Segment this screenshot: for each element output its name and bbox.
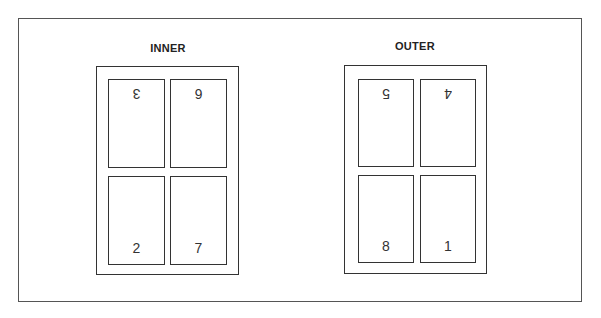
inner-title: INNER — [108, 42, 228, 54]
inner-sheet: 3 6 2 7 — [96, 66, 239, 275]
page-number: 7 — [171, 240, 226, 256]
outer-panel-bottom-right: 1 — [420, 175, 476, 263]
page-number: 3 — [109, 86, 164, 102]
outer-sheet: 5 4 8 1 — [344, 65, 487, 274]
outer-panel-top-right: 4 — [420, 79, 476, 167]
page-number: 6 — [171, 86, 226, 102]
page-number: 1 — [421, 238, 475, 254]
inner-panel-bottom-right: 7 — [170, 176, 227, 265]
outer-panel-bottom-left: 8 — [358, 175, 414, 263]
inner-panel-top-right: 6 — [170, 79, 227, 168]
page-number: 8 — [359, 238, 413, 254]
inner-panel-top-left: 3 — [108, 79, 165, 168]
page-number: 5 — [359, 86, 413, 102]
inner-panel-bottom-left: 2 — [108, 176, 165, 265]
outer-panel-top-left: 5 — [358, 79, 414, 167]
outer-title: OUTER — [355, 40, 475, 52]
page-number: 4 — [421, 86, 475, 102]
page-number: 2 — [109, 240, 164, 256]
